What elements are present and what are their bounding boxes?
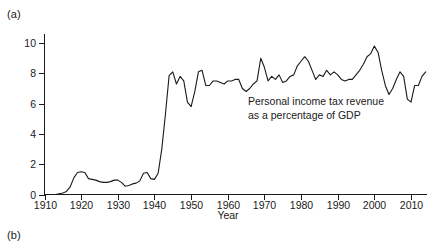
y-tick-label: 8 — [30, 67, 36, 79]
data-series-line — [45, 46, 426, 194]
line-chart: 0246810 19101920193019401950196019701980… — [0, 0, 445, 248]
y-tick-label: 4 — [30, 128, 36, 140]
x-axis-title: Year — [217, 209, 239, 221]
y-tick-marks — [39, 44, 45, 196]
x-tick-label: 2010 — [400, 199, 424, 211]
y-tick-label: 6 — [30, 98, 36, 110]
x-tick-label: 1950 — [180, 199, 204, 211]
y-tick-labels: 0246810 — [24, 37, 36, 201]
y-tick-label: 10 — [24, 37, 36, 49]
x-tick-label: 2000 — [363, 199, 387, 211]
x-tick-label: 1940 — [143, 199, 167, 211]
figure-container: (a) (b) 0246810 191019201930194019501960… — [0, 0, 445, 248]
x-tick-label: 1990 — [327, 199, 351, 211]
x-tick-label: 1980 — [290, 199, 314, 211]
x-tick-label: 1970 — [253, 199, 277, 211]
x-tick-label: 1910 — [34, 199, 58, 211]
x-tick-label: 1930 — [107, 199, 131, 211]
x-tick-label: 1920 — [70, 199, 94, 211]
annotation-line-1: Personal income tax revenue — [248, 95, 384, 107]
annotation-line-2: as a percentage of GDP — [248, 109, 361, 121]
y-axis: 0246810 — [24, 34, 44, 201]
y-tick-label: 2 — [30, 158, 36, 170]
